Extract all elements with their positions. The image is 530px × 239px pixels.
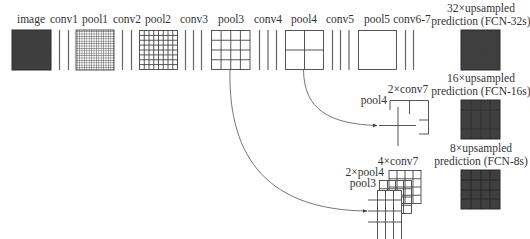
- fusion-16s: 2×conv7 pool4: [361, 83, 429, 146]
- fusion16-front-label: pool4: [361, 94, 387, 107]
- label-conv5: conv5: [326, 13, 354, 25]
- stage-labels: image conv1 pool1 conv2 pool2 conv3 pool…: [17, 13, 431, 26]
- output-fcn32s: 32×upsampled prediction (FCN-32s): [431, 2, 530, 70]
- label-pool4: pool4: [291, 13, 317, 26]
- label-pool2: pool2: [145, 13, 171, 26]
- fcn-architecture-diagram: image conv1 pool1 conv2 pool2 conv3 pool…: [0, 0, 530, 239]
- conv6-7-bars: [406, 30, 414, 70]
- fcn16s-label-line1: 16×upsampled: [447, 72, 515, 85]
- fusion-8s: 4×conv7 2×pool4 pool3: [346, 155, 421, 239]
- pool4-grid: [286, 31, 324, 70]
- fcn8s-label-line1: 8×upsampled: [450, 142, 512, 155]
- fusion16-back-label: 2×conv7: [388, 83, 429, 95]
- label-image: image: [17, 13, 45, 26]
- pool2-grid: [140, 31, 178, 70]
- label-conv2: conv2: [113, 13, 141, 25]
- label-conv1: conv1: [50, 13, 78, 25]
- fcn16s-label-line2: prediction (FCN-16s): [431, 85, 530, 98]
- conv1-bars: [60, 30, 69, 70]
- conv5-bars: [333, 30, 350, 70]
- fcn32s-label-line2: prediction (FCN-32s): [431, 15, 530, 28]
- output-fcn16s: 16×upsampled prediction (FCN-16s): [431, 72, 530, 139]
- conv4-bars: [260, 30, 277, 70]
- fusion8-front-label: pool3: [350, 177, 376, 190]
- label-conv4: conv4: [254, 13, 282, 25]
- image-block: [12, 30, 51, 70]
- label-pool1: pool1: [82, 13, 108, 26]
- label-pool3: pool3: [218, 13, 244, 26]
- label-conv3: conv3: [180, 13, 208, 25]
- fcn8s-label-line2: prediction (FCN-8s): [434, 155, 528, 168]
- output-fcn8s: 8×upsampled prediction (FCN-8s): [434, 142, 528, 209]
- fcn32s-label-line1: 32×upsampled: [447, 2, 515, 15]
- conv2-bars: [123, 30, 132, 70]
- pool1-grid: [76, 30, 114, 70]
- skip-arrow-pool3: [230, 70, 367, 211]
- conv3-bars: [186, 30, 202, 70]
- pool5-block: [359, 31, 397, 70]
- fusion8-front-grid: [368, 190, 402, 239]
- label-pool5: pool5: [364, 13, 390, 26]
- label-conv6-7: conv6-7: [393, 13, 431, 25]
- pool3-grid: [212, 31, 251, 70]
